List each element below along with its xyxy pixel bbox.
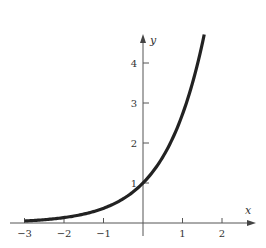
exponential-chart: x y −3−2−112 1234 (0, 0, 266, 248)
x-tick-label: −3 (17, 228, 32, 239)
y-tick-label: 1 (131, 178, 137, 189)
x-axis-arrow-icon (247, 220, 256, 226)
exponential-curve (25, 35, 205, 221)
y-tick-label: 3 (131, 98, 137, 109)
y-tick-label: 2 (131, 138, 137, 149)
x-ticks: −3−2−112 (17, 218, 225, 239)
x-tick-label: 2 (219, 228, 225, 239)
x-tick-label: −1 (96, 228, 111, 239)
y-axis-arrow-icon (140, 34, 146, 43)
x-tick-label: 1 (179, 228, 185, 239)
y-tick-label: 4 (131, 58, 137, 69)
x-tick-label: −2 (57, 228, 72, 239)
series (25, 35, 205, 221)
y-ticks: 1234 (131, 58, 149, 189)
y-axis-label: y (149, 34, 157, 47)
x-axis-label: x (245, 204, 252, 217)
